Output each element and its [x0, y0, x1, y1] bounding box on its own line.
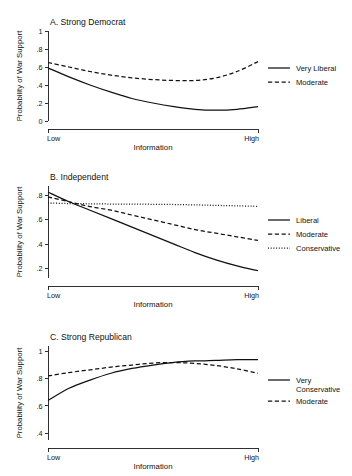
panel-b-plot: B. Independent.2.4.6.8LowHighInformation… — [0, 158, 352, 318]
panel-title: C. Strong Republican — [50, 332, 132, 342]
y-axis-title: Probability of War Support — [15, 30, 24, 122]
series-line-very-conservative — [48, 360, 258, 401]
series-line-liberal — [48, 192, 258, 271]
x-tick-label: Low — [47, 291, 61, 300]
panel-a-plot: A. Strong Democrat0.2.4.6.81LowHighInfor… — [0, 0, 352, 160]
y-tick-label: .6 — [37, 215, 43, 224]
y-tick-label: .6 — [37, 402, 43, 411]
series-line-moderate — [48, 197, 258, 241]
y-tick-label: .4 — [37, 429, 43, 438]
y-tick-label: .6 — [37, 63, 43, 72]
panel-b-independent: B. Independent.2.4.6.8LowHighInformation… — [0, 158, 352, 318]
figure-three-panel-war-support: A. Strong Democrat0.2.4.6.81LowHighInfor… — [0, 0, 352, 476]
series-line-very-liberal — [48, 68, 258, 110]
panel-title: A. Strong Democrat — [50, 17, 126, 27]
legend-label-very-conservative: Conservative — [296, 385, 340, 394]
x-axis-title: Information — [133, 300, 172, 309]
y-tick-label: .2 — [37, 99, 43, 108]
x-tick-label: High — [244, 291, 259, 300]
panel-c-strong-republican: C. Strong Republican.4.6.81LowHighInform… — [0, 318, 352, 476]
series-line-moderate — [48, 62, 258, 81]
panel-c-plot: C. Strong Republican.4.6.81LowHighInform… — [0, 318, 352, 476]
x-tick-label: Low — [47, 134, 61, 143]
y-tick-label: 1 — [39, 27, 43, 36]
legend-label-very-conservative: Very — [296, 376, 311, 385]
legend-label-moderate: Moderate — [296, 397, 328, 406]
y-tick-label: 1 — [39, 347, 43, 356]
y-tick-label: .2 — [37, 264, 43, 273]
y-tick-label: 0 — [39, 117, 43, 126]
y-axis-title: Probability of War Support — [15, 347, 24, 439]
panel-title: B. Independent — [50, 172, 109, 182]
y-tick-label: .8 — [37, 191, 43, 200]
x-axis-title: Information — [133, 143, 172, 152]
legend-label-moderate: Moderate — [296, 230, 328, 239]
legend-label-conservative: Conservative — [296, 244, 340, 253]
legend-label-very-liberal: Very Liberal — [296, 64, 336, 73]
legend-label-liberal: Liberal — [296, 216, 319, 225]
y-tick-label: .4 — [37, 81, 43, 90]
y-tick-label: .8 — [37, 45, 43, 54]
x-tick-label: Low — [47, 453, 61, 462]
y-tick-label: .4 — [37, 240, 43, 249]
x-axis-title: Information — [133, 462, 172, 471]
y-tick-label: .8 — [37, 374, 43, 383]
y-axis-title: Probability of War Support — [15, 186, 24, 278]
x-tick-label: High — [244, 134, 259, 143]
panel-a-strong-democrat: A. Strong Democrat0.2.4.6.81LowHighInfor… — [0, 0, 352, 160]
x-tick-label: High — [244, 453, 259, 462]
legend-label-moderate: Moderate — [296, 78, 328, 87]
